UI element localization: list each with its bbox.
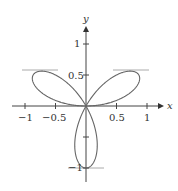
y-tick-label: −1 (68, 162, 83, 173)
x-tick-label: 1 (144, 112, 150, 123)
x-tick-label: −1 (18, 112, 33, 123)
x-tick-label: −0.5 (42, 112, 66, 123)
y-tick-label: 0.5 (68, 70, 84, 81)
y-axis-label: y (82, 13, 89, 24)
y-axis-arrow-icon (83, 26, 89, 32)
y-tick-label: 1 (74, 38, 80, 49)
polar-plot: x y −1 −0.5 0.5 1 1 0.5 −1 (0, 0, 178, 191)
x-tick-label: 0.5 (109, 112, 125, 123)
x-axis-arrow-icon (158, 103, 164, 109)
x-axis-label: x (167, 100, 173, 111)
